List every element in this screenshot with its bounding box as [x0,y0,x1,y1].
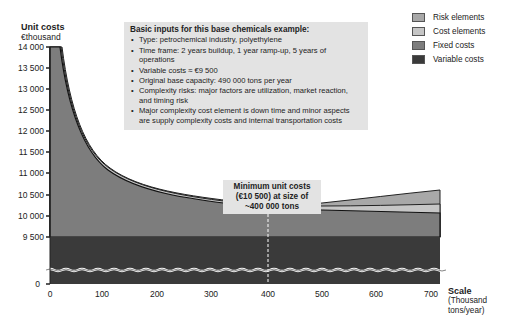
inputs-info-box: Basic inputs for this base chemicals exa… [124,22,368,130]
y-tick-label: 11 500 [19,147,45,157]
x-axis-unit: tons/year) [448,306,487,316]
cost-swatch-icon [412,27,425,36]
y-tick-label: 0 [35,279,40,289]
info-item: Complexity risks: major factors are util… [139,86,362,105]
y-tick-label: 10 500 [18,190,44,200]
legend-label: Variable costs [433,55,484,64]
chart-legend: Risk elements Cost elements Fixed costs … [412,10,485,66]
y-axis-title: Unit costs €thousand [21,22,65,42]
x-axis: 0 100 200 300 400 500 600 700 [48,289,439,299]
x-tick-label: 0 [48,289,53,299]
y-tick-label: 12 000 [18,126,44,136]
y-tick-label: 10 000 [18,211,44,221]
y-tick-label: 14 000 [18,42,44,52]
callout-line: ~400 000 tons [223,202,321,212]
legend-label: Risk elements [433,13,484,22]
legend-item-cost: Cost elements [412,24,485,38]
info-item: Type: petrochemical industry, polyethyle… [139,35,362,44]
legend-item-risk: Risk elements [412,10,485,24]
x-tick-label: 700 [424,289,438,299]
callout-line: (€10 500) at size of [223,192,321,202]
info-box-heading: Basic inputs for this base chemicals exa… [130,25,362,34]
x-axis-title: Scale (Thousand tons/year) [448,286,487,316]
x-axis-title-text: Scale [448,286,487,296]
y-tick-label: 9 500 [23,232,45,242]
x-tick-label: 200 [150,289,164,299]
legend-item-fixed: Fixed costs [412,38,485,52]
x-axis-unit: (Thousand [448,296,487,306]
variable-swatch-icon [412,55,425,64]
x-tick-label: 300 [204,289,218,299]
info-item: Original base capacity: 490 000 tons per… [139,76,362,85]
legend-label: Fixed costs [433,41,474,50]
risk-swatch-icon [412,13,425,22]
x-tick-label: 100 [95,289,109,299]
info-item: Major complexity cost element is down ti… [139,106,362,125]
fixed-swatch-icon [412,41,425,50]
minimum-cost-callout: Minimum unit costs (€10 500) at size of … [223,180,321,214]
y-axis-title-text: Unit costs [21,22,65,32]
info-item: Variable costs ≈ €9 500 [139,66,362,75]
callout-line: Minimum unit costs [223,182,321,192]
x-tick-label: 500 [315,289,329,299]
y-axis: 14 000 13 500 13 000 12 500 12 000 11 50… [18,42,50,289]
legend-label: Cost elements [433,27,485,36]
y-tick-label: 13 000 [18,84,44,94]
info-box-list: Type: petrochemical industry, polyethyle… [130,35,362,125]
x-tick-label: 400 [261,289,275,299]
legend-item-variable: Variable costs [412,52,485,66]
y-tick-label: 13 500 [18,63,44,73]
x-tick-label: 600 [369,289,383,299]
y-tick-label: 12 500 [18,105,44,115]
info-item: Time frame: 2 years buildup, 1 year ramp… [139,46,362,65]
y-axis-unit: €thousand [21,32,65,42]
y-tick-label: 11 000 [19,168,45,178]
